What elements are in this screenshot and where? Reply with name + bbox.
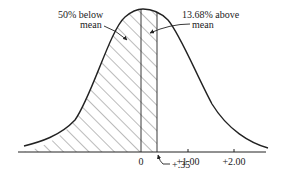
z-marker-arrow [158, 155, 170, 164]
above-mean-label-2: mean [192, 19, 214, 30]
below-mean-label-2: mean [80, 19, 102, 30]
tick-label-0: 0 [139, 156, 144, 167]
z-marker-label: +.35 [172, 159, 190, 170]
tick-label-2: +2.00 [222, 156, 245, 167]
shaded-region [24, 9, 268, 152]
normal-curve-diagram: 0 +1.00 +2.00 +.35 50% below mean 13.68%… [0, 0, 282, 174]
